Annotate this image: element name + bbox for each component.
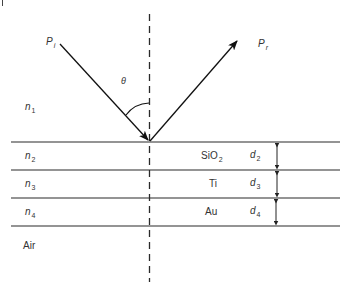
n1-symbol: n bbox=[25, 101, 31, 112]
n2-subscript: 2 bbox=[32, 156, 36, 163]
d4-symbol: d bbox=[250, 205, 256, 216]
incident-power-label: Pi bbox=[46, 36, 55, 49]
n1-subscript: 1 bbox=[32, 107, 36, 114]
d4-subscript: 4 bbox=[257, 211, 261, 218]
reflected-power-label: Pr bbox=[258, 38, 268, 51]
incident-symbol: P bbox=[46, 36, 53, 47]
d2-subscript: 2 bbox=[257, 155, 261, 162]
n3-subscript: 3 bbox=[32, 184, 36, 191]
thin-film-diagram: Pi Pr θ n1 n2 n3 n4 SiO2 Ti Au d2 d3 d4 … bbox=[0, 0, 348, 285]
n4-symbol: n bbox=[25, 206, 31, 217]
ambient-index-label: n1 bbox=[25, 101, 35, 114]
angle-theta-label: θ bbox=[121, 75, 126, 87]
incident-subscript: i bbox=[54, 42, 56, 49]
layer-material-ti: Ti bbox=[209, 178, 217, 190]
layer-index-label-n4: n4 bbox=[25, 206, 35, 219]
angle-theta-arc bbox=[126, 103, 149, 115]
n2-symbol: n bbox=[25, 150, 31, 161]
reflected-symbol: P bbox=[258, 38, 265, 49]
d3-symbol: d bbox=[250, 177, 256, 188]
layer-index-label-n2: n2 bbox=[25, 150, 35, 163]
d3-subscript: 3 bbox=[257, 183, 261, 190]
sio2-subscript: 2 bbox=[219, 156, 223, 163]
n4-subscript: 4 bbox=[32, 212, 36, 219]
thickness-label-d4: d4 bbox=[250, 205, 260, 218]
layer-index-label-n3: n3 bbox=[25, 178, 35, 191]
layer-material-au: Au bbox=[205, 206, 217, 218]
n3-symbol: n bbox=[25, 178, 31, 189]
thickness-label-d3: d3 bbox=[250, 177, 260, 190]
sio2-text: SiO bbox=[201, 150, 218, 161]
incident-ray-arrow bbox=[60, 44, 148, 140]
substrate-air-label: Air bbox=[23, 240, 35, 252]
reflected-subscript: r bbox=[266, 44, 268, 51]
d2-symbol: d bbox=[250, 149, 256, 160]
layer-material-sio2: SiO2 bbox=[201, 150, 223, 163]
thickness-label-d2: d2 bbox=[250, 149, 260, 162]
reflected-ray-arrow bbox=[150, 41, 237, 141]
